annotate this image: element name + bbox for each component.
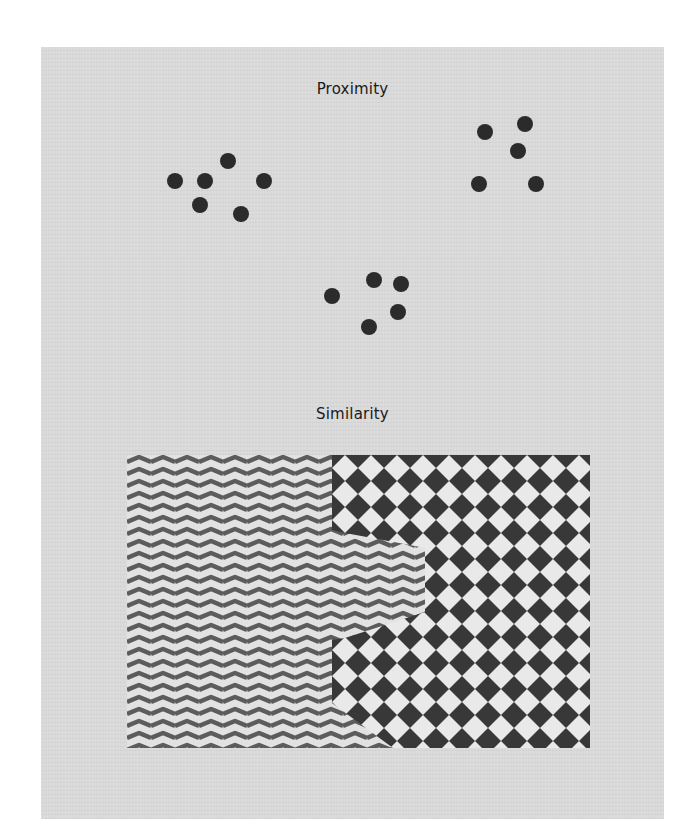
similarity-figure — [0, 0, 684, 838]
